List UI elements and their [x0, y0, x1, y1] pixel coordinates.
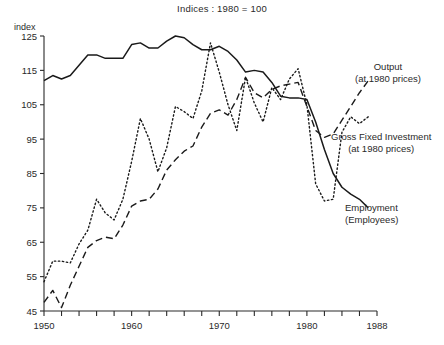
series-annotation-employment: Employment (Employees) — [345, 202, 398, 225]
x-tick-label: 1950 — [33, 320, 54, 331]
series-line-3 — [44, 43, 368, 282]
series-annotation-employment-name: Employment — [345, 202, 398, 213]
x-axis-ticks — [44, 311, 377, 316]
x-axis: 19501960197019801988 — [33, 311, 387, 331]
y-tick-label: 105 — [21, 99, 37, 110]
line-chart-plot: 455565758595105115125 195019601970198019… — [0, 0, 444, 345]
series-line-2 — [44, 77, 368, 307]
series-annotation-gfi-name: Gross Fixed Investment — [331, 131, 431, 142]
y-axis-tick-labels: 455565758595105115125 — [21, 31, 37, 317]
series-line-1 — [44, 36, 368, 208]
y-tick-label: 115 — [22, 65, 37, 76]
series-annotation-gfi-detail: (at 1980 prices) — [331, 143, 431, 155]
x-tick-label: 1970 — [209, 320, 230, 331]
series-annotation-output: Output (at 1980 prices) — [355, 61, 421, 84]
x-axis-tick-labels: 19501960197019801988 — [33, 320, 387, 331]
series-annotation-output-detail: (at 1980 prices) — [355, 73, 421, 85]
y-axis-ticks — [40, 36, 44, 311]
y-tick-label: 55 — [26, 271, 37, 282]
x-tick-label: 1960 — [121, 320, 142, 331]
y-tick-label: 75 — [26, 202, 37, 213]
x-tick-label: 1988 — [366, 320, 387, 331]
y-tick-label: 85 — [26, 168, 37, 179]
chart-figure: Indices : 1980 = 100 index 4555657585951… — [0, 0, 444, 345]
series-annotation-output-name: Output — [374, 61, 403, 72]
data-series-group — [44, 36, 368, 308]
y-tick-label: 125 — [21, 31, 37, 42]
series-annotation-employment-detail: (Employees) — [345, 214, 398, 226]
x-tick-label: 1980 — [296, 320, 317, 331]
y-tick-label: 95 — [26, 134, 37, 145]
y-tick-label: 65 — [26, 237, 37, 248]
series-annotation-gross-fixed-investment: Gross Fixed Investment (at 1980 prices) — [331, 131, 431, 154]
y-axis: 455565758595105115125 — [21, 31, 44, 317]
y-tick-label: 45 — [26, 306, 37, 317]
